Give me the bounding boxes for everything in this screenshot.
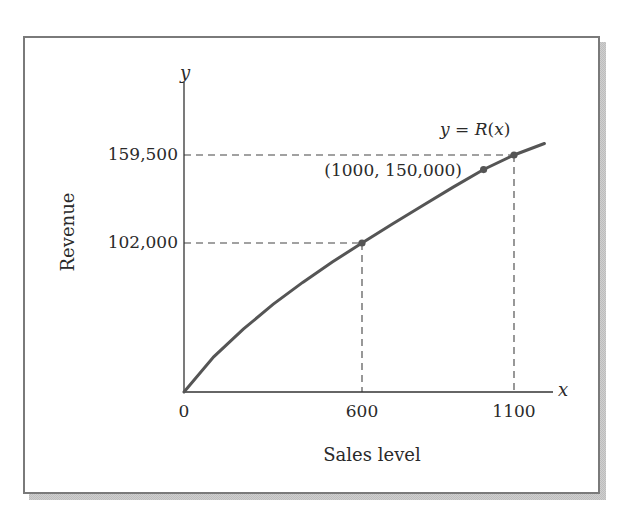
data-point: [510, 151, 517, 158]
y-tick-label: 102,000: [108, 234, 178, 251]
plot-area: [0, 0, 629, 518]
y-axis-title: Revenue: [59, 193, 77, 272]
x-axis-variable: x: [558, 381, 568, 399]
curve-label-arg: x: [494, 119, 504, 139]
curve-label-fn: R: [475, 119, 488, 139]
x-tick-label: 0: [179, 403, 190, 420]
data-point: [480, 166, 487, 173]
x-tick-label: 600: [346, 403, 378, 420]
point-annotation: (1000, 150,000): [324, 162, 462, 179]
curve-label-eq: =: [450, 119, 475, 139]
y-tick-label: 159,500: [108, 146, 178, 163]
curve-label-close: ): [504, 119, 511, 139]
x-tick-label: 1100: [492, 403, 535, 420]
guide-lines: [184, 155, 514, 392]
revenue-curve: [184, 144, 544, 393]
figure: y x 102,000 159,500 0 600 1100 Sales lev…: [0, 0, 629, 518]
y-axis-variable: y: [180, 64, 190, 82]
curve-label: y = R(x): [440, 121, 510, 138]
curve-label-lhs: y: [440, 119, 450, 139]
data-point: [358, 239, 365, 246]
x-axis-title: Sales level: [323, 446, 420, 464]
